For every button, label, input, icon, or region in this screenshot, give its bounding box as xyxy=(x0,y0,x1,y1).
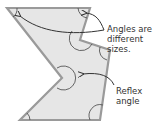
label-angles-different: Angles are different sizes. xyxy=(107,24,167,54)
label-reflex-angle: Reflex angle xyxy=(116,86,142,106)
polygon-diagram xyxy=(0,0,167,125)
polygon-shape xyxy=(7,8,110,120)
